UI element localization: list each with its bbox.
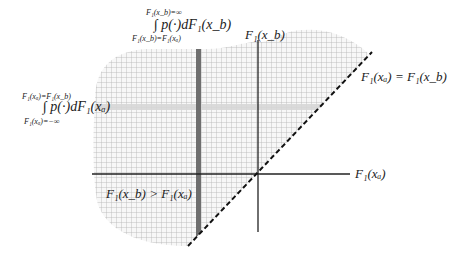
dark-vertical-band — [196, 40, 201, 255]
diagonal-label: F₁(xₐ) = F₁(x_b) — [361, 70, 447, 83]
left-integral-lower-limit: F₁(xₐ)=−∞ — [24, 118, 59, 126]
top-integral-expression: ∫ p(·)dF₁(x_b) — [154, 18, 231, 32]
left-integral-expression: ∫ p(·)dF₁(xₐ) — [43, 100, 110, 114]
region-label: F₁(x_b) > F₁(xₐ) — [106, 187, 192, 200]
light-horizontal-band — [80, 104, 380, 110]
diagram-canvas — [0, 0, 457, 258]
top-integral-lower-limit: F₁(x_b)=F₁(xₐ) — [132, 35, 181, 43]
y-axis-label: F₁(x_b) — [245, 28, 285, 41]
x-axis-label: F₁(xₐ) — [355, 167, 386, 180]
integration-region — [80, 25, 380, 255]
top-integral-upper-limit: F₁(x_b)=∞ — [146, 9, 182, 17]
